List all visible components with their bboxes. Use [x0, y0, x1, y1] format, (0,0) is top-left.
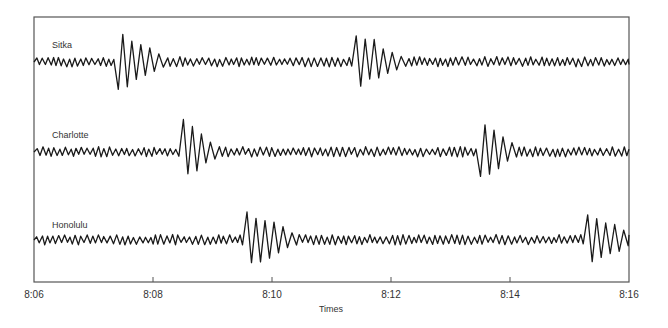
tick-label: 8:14 [500, 289, 520, 300]
trace-charlotte [34, 120, 629, 177]
tick-label: 8:08 [143, 289, 163, 300]
tick-label: 8:12 [381, 289, 401, 300]
trace-label-sitka: Sitka [52, 40, 72, 50]
tick-label: 8:16 [619, 289, 639, 300]
trace-label-charlotte: Charlotte [52, 130, 89, 140]
trace-label-honolulu: Honolulu [52, 220, 88, 230]
tick-label: 8:10 [262, 289, 282, 300]
trace-honolulu [34, 212, 629, 263]
tick-label: 8:06 [24, 289, 44, 300]
seismogram-chart: 8:06 8:08 8:10 8:12 8:14 8:16 Times Sitk… [0, 0, 668, 328]
trace-sitka [34, 34, 629, 89]
x-axis-label: Times [319, 304, 344, 314]
